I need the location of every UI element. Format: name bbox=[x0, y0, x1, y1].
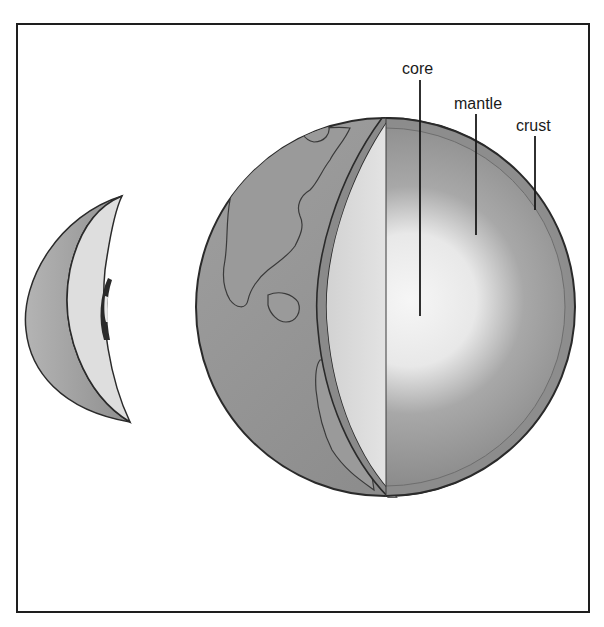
label-mantle: mantle bbox=[454, 95, 502, 112]
earth-layers-diagram: core mantle crust bbox=[0, 0, 604, 627]
label-crust: crust bbox=[516, 117, 551, 134]
label-core: core bbox=[402, 60, 433, 77]
earth-globe bbox=[196, 117, 575, 497]
